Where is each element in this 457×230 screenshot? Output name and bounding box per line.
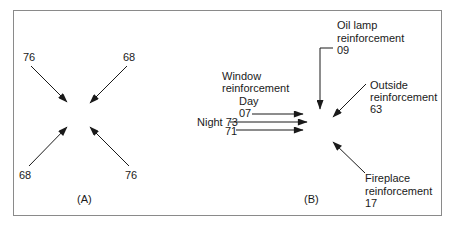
fireplace-label-line1: Fireplace	[365, 172, 410, 185]
panel-a-bottom-left-value: 68	[19, 169, 31, 182]
panel-b-caption: (B)	[304, 193, 319, 206]
arrow-top-left	[31, 66, 67, 102]
fireplace-label-line2: reinforcement	[365, 185, 432, 198]
arrow-top-right	[90, 66, 127, 103]
panel-a-bottom-right-value: 76	[125, 169, 137, 182]
fireplace-value: 17	[365, 197, 377, 210]
window-third-value: 71	[225, 125, 237, 138]
arrow-bottom-left	[29, 127, 67, 166]
panel-a-top-right-value: 68	[123, 51, 135, 64]
arrow-outside	[333, 84, 366, 117]
outside-value: 63	[370, 103, 382, 116]
window-label-line2: reinforcement	[222, 82, 289, 95]
outside-label-line2: reinforcement	[370, 91, 437, 104]
panel-a-top-left-value: 76	[23, 51, 35, 64]
arrow-bottom-right	[90, 127, 129, 166]
arrow-fireplace	[333, 142, 365, 173]
arrow-oil-lamp	[320, 48, 333, 109]
window-day-label: Day	[239, 95, 259, 108]
window-label-line1: Window	[222, 70, 261, 83]
panel-a-arrows	[29, 66, 129, 166]
oil-lamp-label-line2: reinforcement	[337, 32, 404, 45]
window-day-value: 07	[239, 107, 251, 120]
oil-lamp-value: 09	[337, 44, 349, 57]
panel-a-caption: (A)	[77, 193, 92, 206]
outside-label-line1: Outside	[370, 79, 408, 92]
oil-lamp-label-line1: Oil lamp	[337, 19, 377, 32]
